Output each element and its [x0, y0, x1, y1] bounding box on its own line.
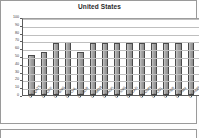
y-tick-mark — [20, 26, 22, 27]
y-tick-label: 70 — [1, 39, 19, 43]
y-tick-mark — [20, 18, 22, 19]
gridline — [23, 74, 199, 75]
y-tick-label: 0 — [1, 94, 19, 98]
y-tick-label: 40 — [1, 63, 19, 67]
y-tick-label: 100 — [1, 16, 19, 20]
gridline — [23, 58, 199, 59]
y-tick-mark — [20, 41, 22, 42]
y-tick-label: 90 — [1, 24, 19, 28]
gridline — [23, 42, 199, 43]
bar-fill — [103, 44, 107, 94]
y-tick-mark — [20, 88, 22, 89]
y-tick-label: 60 — [1, 47, 19, 51]
gridline — [23, 66, 199, 67]
gridline — [23, 19, 199, 20]
y-tick-mark — [20, 65, 22, 66]
y-tick-label: 20 — [1, 78, 19, 82]
bar-fill — [127, 44, 131, 94]
y-tick-label: 50 — [1, 55, 19, 59]
gridline — [23, 81, 199, 82]
bar-fill — [164, 44, 168, 94]
y-tick-mark — [20, 49, 22, 50]
chart-title: United States — [1, 3, 198, 10]
y-tick-mark — [20, 57, 22, 58]
y-tick-label: 30 — [1, 71, 19, 75]
gridline — [23, 35, 199, 36]
y-tick-mark — [20, 73, 22, 74]
bar-fill — [152, 44, 156, 94]
y-tick-label: 10 — [1, 86, 19, 90]
next-chart-panel — [0, 129, 197, 138]
gridline — [23, 50, 199, 51]
plot-area — [22, 18, 199, 96]
bar-fill — [176, 44, 180, 94]
bar-fill — [115, 44, 119, 94]
y-tick-mark — [20, 80, 22, 81]
screenshot-root: United States 0102030405060708090100 US-… — [0, 0, 199, 138]
y-tick-label: 80 — [1, 32, 19, 36]
chart-panel: United States 0102030405060708090100 US-… — [0, 0, 197, 124]
bar-fill — [54, 44, 58, 94]
bar-series — [23, 19, 199, 95]
x-axis-labels: US-QATSUS-OFFUS-BNGUS-CHLUS-JORUS-MORUS-… — [22, 97, 199, 127]
bar-fill — [91, 44, 95, 94]
y-tick-mark — [20, 34, 22, 35]
gridline — [23, 27, 199, 28]
bar-fill — [140, 44, 144, 94]
